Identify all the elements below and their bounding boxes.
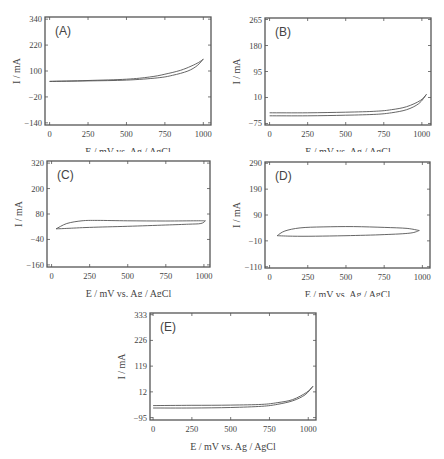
y-tick-label: 10 xyxy=(254,92,263,102)
panel-d: 02505007501000−110−1090190290E / mV vs. … xyxy=(222,145,444,297)
x-tick-label: 0 xyxy=(151,424,155,434)
y-axis-label: I / mA xyxy=(231,201,242,228)
chart-svg: 02505007501000−160−4080200320E / mV vs. … xyxy=(0,145,222,297)
x-tick-label: 250 xyxy=(83,271,96,281)
y-tick-label: 95 xyxy=(254,67,263,77)
y-tick-label: −95 xyxy=(134,413,147,423)
chart-svg: 02505007501000−9512119226333E / mV vs. A… xyxy=(105,297,327,457)
x-tick-label: 1000 xyxy=(195,129,212,139)
y-axis-label: I / mA xyxy=(11,57,22,84)
y-tick-label: 100 xyxy=(29,66,42,76)
panel-label: (E) xyxy=(160,320,176,334)
y-tick-label: 119 xyxy=(135,361,147,371)
y-tick-label: 333 xyxy=(134,310,147,320)
x-tick-label: 0 xyxy=(49,271,53,281)
x-tick-label: 0 xyxy=(267,129,271,139)
y-axis-label: I / mA xyxy=(13,200,24,227)
x-tick-label: 0 xyxy=(267,272,271,282)
x-tick-label: 0 xyxy=(47,129,51,139)
x-tick-label: 750 xyxy=(263,424,276,434)
panel-b: 02505007501000−751095180265E / mV vs. Ag… xyxy=(222,0,444,152)
y-tick-label: 12 xyxy=(139,387,148,397)
y-tick-label: −140 xyxy=(24,118,42,128)
x-tick-label: 500 xyxy=(120,129,133,139)
x-tick-label: 1000 xyxy=(300,424,317,434)
x-axis-label: E / mV vs. Ag / AgCl xyxy=(305,289,391,297)
panel-c: 02505007501000−160−4080200320E / mV vs. … xyxy=(0,145,222,297)
cv-curve-reverse xyxy=(270,94,427,112)
x-tick-label: 250 xyxy=(186,424,199,434)
y-tick-label: 265 xyxy=(249,15,262,25)
x-tick-label: 750 xyxy=(378,272,391,282)
chart-svg: 02505007501000−110−1090190290E / mV vs. … xyxy=(222,145,444,297)
x-tick-label: 250 xyxy=(82,129,95,139)
y-tick-label: −10 xyxy=(249,236,262,246)
x-tick-label: 500 xyxy=(224,424,237,434)
y-tick-label: −160 xyxy=(26,260,44,270)
cv-curve-reverse xyxy=(153,386,313,405)
y-tick-label: 200 xyxy=(31,184,44,194)
y-tick-label: −75 xyxy=(249,118,262,128)
y-axis-label: I / mA xyxy=(116,353,127,380)
y-tick-label: 340 xyxy=(29,14,42,24)
y-tick-label: 180 xyxy=(249,41,262,51)
panel-label: (B) xyxy=(275,25,291,39)
panel-label: (C) xyxy=(57,168,74,182)
x-tick-label: 1000 xyxy=(414,272,431,282)
x-tick-label: 250 xyxy=(301,129,314,139)
y-tick-label: −110 xyxy=(245,262,262,272)
y-tick-label: 220 xyxy=(29,40,42,50)
panel-a: 02505007501000−140−20100220340E / mV vs.… xyxy=(0,0,222,152)
y-tick-label: 226 xyxy=(134,335,147,345)
y-tick-label: 290 xyxy=(249,158,262,168)
panel-e: 02505007501000−9512119226333E / mV vs. A… xyxy=(105,297,327,457)
x-tick-label: 750 xyxy=(377,129,390,139)
x-tick-label: 500 xyxy=(339,129,352,139)
y-tick-label: 80 xyxy=(36,209,45,219)
x-tick-label: 1000 xyxy=(195,271,212,281)
x-tick-label: 1000 xyxy=(413,129,430,139)
chart-svg: 02505007501000−751095180265E / mV vs. Ag… xyxy=(222,0,444,152)
cv-curve-cathodic xyxy=(56,221,205,229)
panel-label: (A) xyxy=(55,24,71,38)
y-tick-label: 190 xyxy=(249,184,262,194)
y-tick-label: 90 xyxy=(254,210,263,220)
y-tick-label: −40 xyxy=(31,234,44,244)
y-tick-label: 320 xyxy=(31,158,44,168)
x-tick-label: 500 xyxy=(121,271,134,281)
x-tick-label: 250 xyxy=(301,272,314,282)
cv-curve-cathodic xyxy=(277,231,419,237)
x-tick-label: 500 xyxy=(340,272,353,282)
x-tick-label: 750 xyxy=(159,129,172,139)
y-axis-label: I / mA xyxy=(231,58,242,85)
cv-curve-forward xyxy=(50,59,204,81)
x-axis-label: E / mV vs. Ag / AgCl xyxy=(190,441,276,452)
y-tick-label: −20 xyxy=(29,92,42,102)
x-tick-label: 750 xyxy=(159,271,172,281)
panel-label: (D) xyxy=(275,169,292,183)
x-axis-label: E / mV vs. Ag / AgCl xyxy=(86,288,172,297)
chart-svg: 02505007501000−140−20100220340E / mV vs.… xyxy=(0,0,222,152)
